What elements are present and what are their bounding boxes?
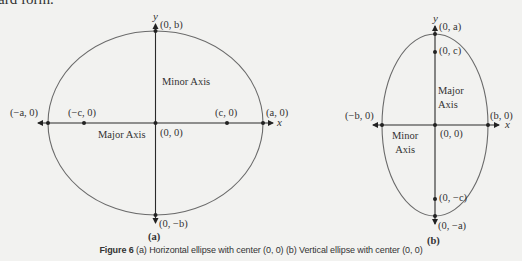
- label-right-focus-a: (c, 0): [215, 108, 237, 119]
- minor-axis-label-b-line2: Axis: [392, 143, 418, 157]
- major-axis-label-a: Major Axis: [98, 128, 146, 142]
- major-axis-label-b-line1: Major: [438, 84, 464, 98]
- label-top-focus-b: (0, c): [439, 46, 461, 57]
- point-left-vertex-b: [380, 123, 384, 127]
- minor-axis-label-b: Minor Axis: [392, 129, 418, 157]
- point-left-vertex-a: [46, 121, 50, 125]
- label-top-a: (0, b): [160, 20, 183, 31]
- y-axis-label-b: y: [433, 13, 438, 24]
- point-top-a: [154, 29, 158, 33]
- point-right-vertex-b: [486, 123, 490, 127]
- point-center-b: [433, 123, 437, 127]
- point-bottom-a: [154, 213, 158, 217]
- point-bottom-b: [433, 214, 437, 218]
- label-bottom-focus-b: (0, −c): [439, 193, 467, 204]
- label-top-b: (0, a): [439, 22, 461, 33]
- label-left-vertex-b: (−b, 0): [345, 111, 374, 122]
- figure-b-vertical-ellipse: [373, 26, 499, 224]
- x-axis-label-a: x: [277, 117, 282, 128]
- y-axis-label-a: y: [153, 11, 158, 22]
- minor-axis-label-b-line1: Minor: [392, 129, 418, 143]
- label-center-a: (0, 0): [160, 128, 183, 139]
- point-top-focus-b: [433, 50, 437, 54]
- figure-caption: Figure 6 (a) Horizontal ellipse with cen…: [0, 245, 522, 255]
- point-bottom-focus-b: [433, 197, 437, 201]
- figure-caption-text: (a) Horizontal ellipse with center (0, 0…: [136, 245, 423, 255]
- figure-number: Figure 6: [99, 245, 133, 255]
- label-bottom-a: (0, −b): [159, 219, 188, 230]
- point-left-focus-a: [82, 121, 86, 125]
- major-axis-label-b-line2: Axis: [438, 98, 464, 112]
- label-left-vertex-a: (−a, 0): [10, 108, 38, 119]
- major-axis-label-b: Major Axis: [438, 84, 464, 112]
- label-center-b: (0, 0): [440, 129, 463, 140]
- point-right-vertex-a: [261, 121, 265, 125]
- point-center-a: [154, 121, 158, 125]
- sublabel-a: (a): [148, 231, 160, 242]
- minor-axis-label-a: Minor Axis: [162, 75, 210, 89]
- label-left-focus-a: (−c, 0): [68, 108, 96, 119]
- x-axis-label-b: x: [505, 119, 510, 130]
- label-bottom-b: (0, −a): [438, 221, 466, 232]
- point-right-focus-a: [225, 121, 229, 125]
- figure-a-horizontal-ellipse: [38, 24, 273, 223]
- point-top-b: [433, 32, 437, 36]
